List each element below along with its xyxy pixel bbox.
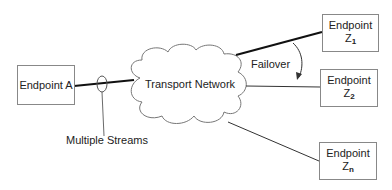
endpoint-z1-sub: 1 <box>352 37 356 46</box>
endpoint-zn-box: Endpoint Zn <box>319 142 377 180</box>
failover-label: Failover <box>251 58 290 71</box>
link-cloud-z2 <box>246 86 320 87</box>
multiple-streams-label: Multiple Streams <box>66 134 148 147</box>
endpoint-z1-box: Endpoint Z1 <box>322 14 379 52</box>
cloud-label: Transport Network <box>145 78 235 91</box>
endpoint-a-box: Endpoint A <box>17 65 75 105</box>
failover-arrow <box>293 43 302 77</box>
endpoint-z2-label: Endpoint <box>327 74 370 87</box>
endpoint-a-label: Endpoint A <box>19 79 72 92</box>
endpoint-z2-sub: 2 <box>350 92 354 101</box>
endpoint-z1-name: Z <box>345 32 352 44</box>
endpoint-z2-box: Endpoint Z2 <box>320 69 378 107</box>
endpoint-zn-label: Endpoint <box>326 147 369 160</box>
link-cloud-z1 <box>236 32 322 55</box>
endpoint-zn-name: Z <box>342 160 349 172</box>
endpoint-z1-label: Endpoint <box>329 19 372 32</box>
streams-pointer <box>102 92 104 136</box>
link-cloud-zn <box>228 122 319 161</box>
endpoint-zn-sub: n <box>349 165 354 174</box>
link-a-cloud <box>74 80 134 86</box>
failover-arrowhead <box>296 72 302 80</box>
